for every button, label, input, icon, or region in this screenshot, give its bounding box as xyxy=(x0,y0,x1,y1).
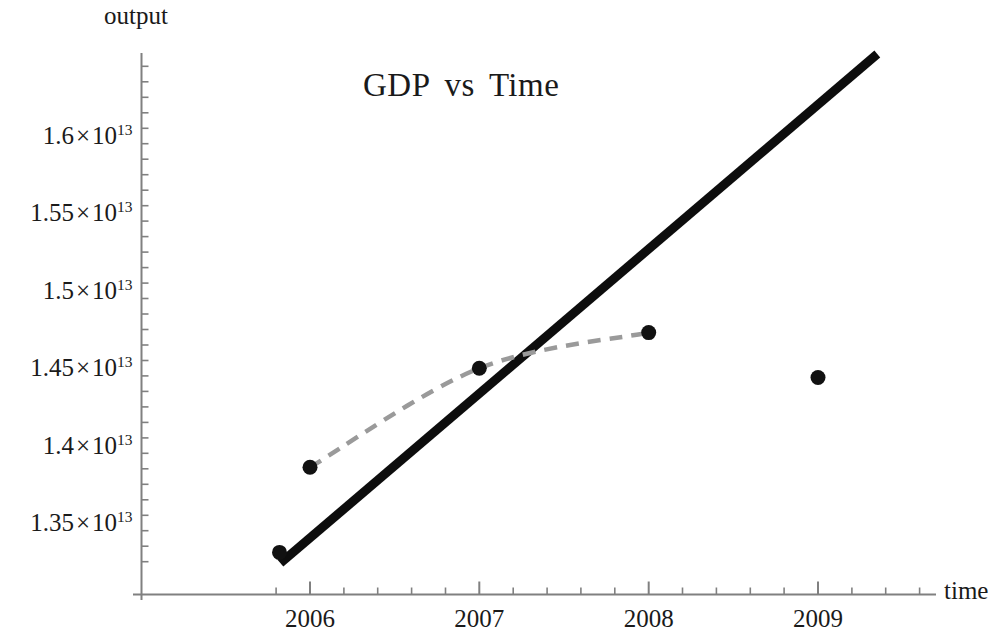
y-axis-tick-label: 1.6×1013 xyxy=(43,122,133,150)
tick-base: 10 xyxy=(92,354,117,381)
title-word-1: GDP xyxy=(356,67,438,103)
title-word-3: Time xyxy=(482,67,566,103)
tick-times-symbol: × xyxy=(74,432,92,459)
tick-exponent: 13 xyxy=(117,353,133,370)
data-points xyxy=(272,325,826,560)
title-word-2: vs xyxy=(438,67,482,103)
tick-times-symbol: × xyxy=(74,509,92,536)
tick-exponent: 13 xyxy=(117,430,133,447)
y-axis-tick-label: 1.5×1013 xyxy=(43,277,133,305)
tick-base: 10 xyxy=(92,122,117,149)
x-axis-tick-label: 2007 xyxy=(454,605,504,633)
y-axis-tick-label: 1.45×1013 xyxy=(30,354,132,382)
tick-mantissa: 1.6 xyxy=(43,122,74,149)
tick-times-symbol: × xyxy=(74,277,92,304)
tick-exponent: 13 xyxy=(117,275,133,292)
tick-base: 10 xyxy=(92,199,117,226)
tick-mantissa: 1.45 xyxy=(30,354,74,381)
tick-base: 10 xyxy=(92,277,117,304)
tick-mantissa: 1.55 xyxy=(30,199,74,226)
y-axis-tick-label: 1.55×1013 xyxy=(30,199,132,227)
y-axis-ticks xyxy=(142,66,149,561)
tick-mantissa: 1.35 xyxy=(30,509,74,536)
tick-times-symbol: × xyxy=(74,122,92,149)
tick-exponent: 13 xyxy=(117,121,133,138)
chart-title: GDPvsTime xyxy=(356,67,566,104)
x-axis-label: time xyxy=(944,577,988,605)
tick-exponent: 13 xyxy=(117,198,133,215)
interpolating-dashed-curve xyxy=(310,333,649,468)
y-axis-tick-label: 1.35×1013 xyxy=(30,509,132,537)
tick-times-symbol: × xyxy=(74,354,92,381)
axes xyxy=(133,53,936,600)
y-axis-tick-label: 1.4×1013 xyxy=(43,432,133,460)
tick-exponent: 13 xyxy=(117,508,133,525)
y-axis-label: output xyxy=(104,2,168,30)
x-axis-tick-label: 2008 xyxy=(624,605,674,633)
x-axis-ticks xyxy=(276,582,920,595)
x-axis-tick-label: 2009 xyxy=(793,605,843,633)
tick-mantissa: 1.4 xyxy=(43,432,74,459)
gdp-vs-time-chart: GDPvsTime output time 1.6×10131.55×10131… xyxy=(0,0,994,641)
x-axis-tick-label: 2006 xyxy=(285,605,335,633)
tick-base: 10 xyxy=(92,432,117,459)
tick-mantissa: 1.5 xyxy=(43,277,74,304)
tick-base: 10 xyxy=(92,509,117,536)
linear-trend-line xyxy=(280,54,877,563)
tick-times-symbol: × xyxy=(74,199,92,226)
